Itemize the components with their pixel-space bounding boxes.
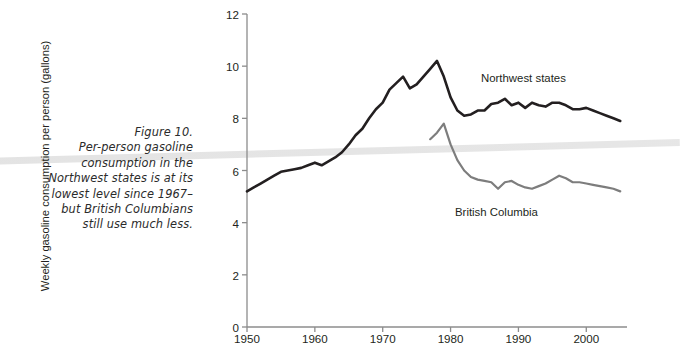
- series-line-british-columbia: [430, 124, 620, 192]
- chart-axes: [242, 14, 627, 332]
- series-label-british-columbia: British Columbia: [455, 206, 538, 218]
- series-label-northwest-states: Northwest states: [481, 72, 566, 84]
